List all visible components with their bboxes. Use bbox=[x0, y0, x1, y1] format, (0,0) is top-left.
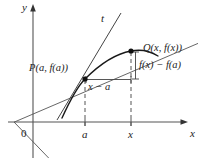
origin-label: 0 bbox=[21, 128, 27, 139]
point-p-label: P(a, f(a)) bbox=[29, 63, 68, 74]
y-axis bbox=[30, 4, 36, 158]
x-axis-label: x bbox=[190, 128, 195, 139]
tick-label-x: x bbox=[128, 129, 133, 140]
y-axis-label: y bbox=[22, 2, 27, 13]
rise-label: f(x) − f(a) bbox=[139, 60, 181, 71]
run-label: x − a bbox=[88, 82, 110, 93]
rise-bracket bbox=[132, 52, 139, 79]
calculus-secant-tangent-figure: y t x 0 a x P(a, f(a)) Q(x, f(x)) f(x) −… bbox=[0, 0, 203, 158]
tick-label-a: a bbox=[82, 129, 88, 140]
tangent-label: t bbox=[101, 13, 104, 24]
point-q-marker bbox=[128, 48, 133, 53]
point-p-marker bbox=[82, 76, 87, 81]
x-axis bbox=[8, 119, 188, 125]
secant-line bbox=[14, 122, 196, 158]
point-q-label: Q(x, f(x)) bbox=[143, 43, 182, 54]
